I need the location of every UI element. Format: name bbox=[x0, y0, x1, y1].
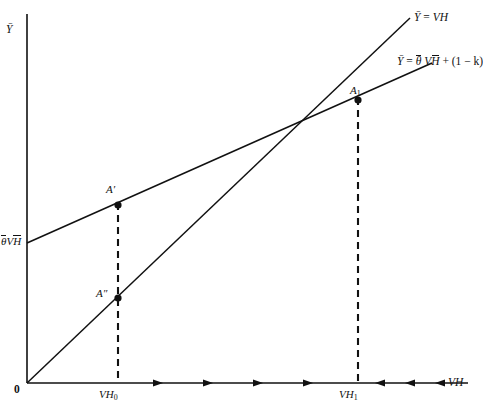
x-axis-label-text: VH bbox=[448, 376, 463, 388]
x-tick-label-vh0: VH0 bbox=[99, 389, 118, 402]
origin-label-text: 0 bbox=[14, 383, 20, 395]
eq2-h-bar-glyph: H bbox=[431, 56, 439, 68]
x-tick-vh1-sub: 1 bbox=[354, 393, 358, 402]
eq2-tail: (1 − k) bbox=[452, 55, 483, 67]
origin-label: 0 bbox=[14, 384, 20, 396]
point-label-a1-sub: 1 bbox=[357, 89, 361, 98]
y-axis-label: Ȳ bbox=[6, 24, 12, 36]
x-tick-vh1-base: VH bbox=[339, 388, 354, 400]
theta-bar-glyph: θ bbox=[1, 236, 6, 247]
y-tick-label-theta-vh: θVH bbox=[1, 236, 21, 247]
x-tick-label-vh1: VH1 bbox=[339, 389, 358, 402]
series-label-identity: Ȳ = VH bbox=[414, 12, 448, 24]
series-line-theta bbox=[27, 63, 432, 243]
x-axis-label: VH bbox=[448, 377, 463, 389]
point-label-a-double-prime: A″ bbox=[96, 288, 107, 299]
point-label-a-prime: A′ bbox=[106, 184, 115, 195]
h-bar-glyph: H bbox=[13, 236, 21, 247]
point-label-a-double-prime-text: A″ bbox=[96, 287, 107, 299]
point-marker-a-double-prime bbox=[114, 294, 121, 301]
point-label-a-prime-text: A′ bbox=[106, 183, 115, 195]
series-line-identity bbox=[27, 18, 410, 383]
point-marker-a-prime bbox=[114, 201, 121, 208]
x-tick-vh0-sub: 0 bbox=[114, 393, 118, 402]
series-label-theta: Ȳ = θ VH + (1 − k) bbox=[397, 56, 483, 68]
point-label-a1-base: A bbox=[350, 84, 357, 96]
x-tick-vh0-base: VH bbox=[99, 388, 114, 400]
eq2-theta-bar-glyph: θ bbox=[416, 56, 422, 68]
eq1-rhs: VH bbox=[433, 11, 448, 23]
y-axis-label-text: Ȳ bbox=[6, 23, 12, 35]
point-label-a1: A1 bbox=[350, 85, 361, 98]
